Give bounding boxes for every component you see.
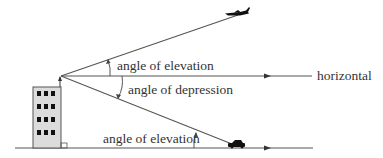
horizontal-label: horizontal [317,68,372,83]
airplane-icon [225,7,250,16]
ground-arrow-icon [264,146,271,151]
lower-elevation-label: angle of elevation [103,131,200,146]
horizontal-arrow-icon [264,74,271,79]
right-angle-marker [61,143,67,148]
depression-label: angle of depression [128,82,233,97]
car-icon [228,140,245,148]
upper-elevation-label: angle of elevation [117,58,214,73]
angles-diagram: angle of elevation angle of depression a… [0,0,383,158]
